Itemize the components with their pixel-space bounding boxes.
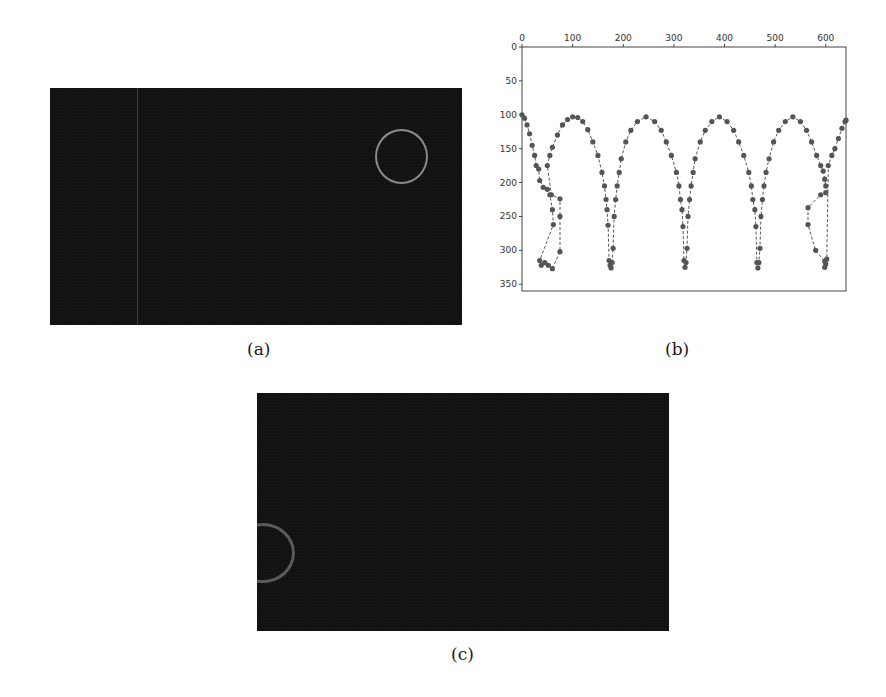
data-point (755, 265, 760, 270)
data-point (798, 119, 803, 124)
data-point (575, 115, 580, 120)
x-tick-label: 300 (665, 33, 682, 43)
data-point (717, 114, 722, 119)
data-point (550, 145, 555, 150)
vertical-line (137, 88, 138, 325)
data-point (761, 183, 766, 188)
data-point (524, 122, 529, 127)
data-point (731, 128, 736, 133)
ball-ring (375, 129, 428, 184)
data-point (698, 139, 703, 144)
data-point (557, 249, 562, 254)
x-tick-label: 400 (716, 33, 733, 43)
data-point (763, 170, 768, 175)
data-point (757, 246, 762, 251)
data-point (771, 139, 776, 144)
data-point (776, 128, 781, 133)
data-point (766, 156, 771, 161)
data-point (783, 119, 788, 124)
data-point (530, 143, 535, 148)
data-point (805, 222, 810, 227)
data-point (585, 127, 590, 132)
data-point (659, 128, 664, 133)
data-point (756, 260, 761, 265)
data-point (682, 265, 687, 270)
data-point (613, 197, 618, 202)
y-tick-label: 200 (500, 178, 517, 188)
data-point (652, 119, 657, 124)
data-point (826, 163, 831, 168)
data-point (693, 156, 698, 161)
data-point (703, 128, 708, 133)
data-point (570, 114, 575, 119)
data-point (814, 153, 819, 158)
data-point (623, 139, 628, 144)
data-point (537, 178, 542, 183)
data-point (664, 139, 669, 144)
data-point (537, 258, 542, 263)
data-point (557, 196, 562, 201)
data-point (804, 128, 809, 133)
data-point (832, 146, 837, 151)
data-point (687, 197, 692, 202)
data-point (599, 170, 604, 175)
data-point (551, 222, 556, 227)
data-point (560, 122, 565, 127)
data-point (610, 260, 615, 265)
data-point (615, 183, 620, 188)
data-point (822, 177, 827, 182)
data-point (609, 265, 614, 270)
data-point (691, 170, 696, 175)
data-point (683, 260, 688, 265)
data-point (709, 119, 714, 124)
data-point (685, 214, 690, 219)
data-point (818, 192, 823, 197)
data-point (628, 128, 633, 133)
data-point (617, 170, 622, 175)
data-point (746, 170, 751, 175)
data-point (612, 214, 617, 219)
data-point (750, 197, 755, 202)
y-tick-label: 350 (500, 279, 517, 289)
data-point (688, 183, 693, 188)
data-point (813, 248, 818, 253)
data-point (557, 214, 562, 219)
data-point (818, 163, 823, 168)
data-point (603, 197, 608, 202)
data-point (836, 136, 841, 141)
data-point (547, 153, 552, 158)
data-point (669, 153, 674, 158)
data-point (823, 261, 828, 266)
data-point (680, 224, 685, 229)
data-point (829, 153, 834, 158)
data-point (724, 119, 729, 124)
data-point (741, 153, 746, 158)
data-point (753, 224, 758, 229)
data-point (580, 119, 585, 124)
y-tick-label: 50 (506, 76, 518, 86)
data-point (527, 131, 532, 136)
data-point (839, 126, 844, 131)
data-point (643, 114, 648, 119)
data-point (549, 192, 554, 197)
data-point (679, 207, 684, 212)
x-tick-label: 0 (519, 33, 525, 43)
data-point (550, 207, 555, 212)
data-point (805, 205, 810, 210)
data-point (790, 114, 795, 119)
data-point (595, 153, 600, 158)
data-point (635, 119, 640, 124)
caption-a: (a) (247, 339, 270, 359)
data-point (821, 168, 826, 173)
data-point (758, 214, 763, 219)
data-point (760, 197, 765, 202)
x-tick-label: 600 (817, 33, 834, 43)
data-point (676, 183, 681, 188)
data-point (532, 153, 537, 158)
ball-ring (257, 523, 295, 583)
panel-c-video-frame (257, 393, 669, 631)
x-tick-label: 200 (615, 33, 632, 43)
data-point (545, 163, 550, 168)
x-tick-label: 100 (564, 33, 581, 43)
data-point (824, 257, 829, 262)
